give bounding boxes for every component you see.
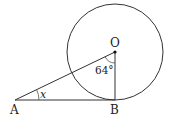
angle-arc-a — [37, 90, 39, 100]
label-o: O — [110, 36, 120, 50]
segment-ao — [15, 52, 115, 100]
label-a: A — [9, 103, 19, 117]
angle-label-x: x — [40, 88, 47, 101]
label-b: B — [110, 103, 119, 117]
angle-label-o: 64° — [95, 64, 114, 76]
geometry-diagram: O A B 64° x — [0, 0, 177, 119]
angle-arc-o — [105, 57, 115, 63]
center-point-o — [113, 50, 116, 53]
